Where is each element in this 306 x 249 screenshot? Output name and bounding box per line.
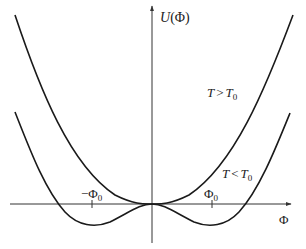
potential-diagram: U(Φ) T>T0 T<T0 −Φ0 Φ0 Φ: [0, 0, 306, 249]
y-axis-label: U(Φ): [160, 10, 190, 26]
tick-label-pos-phi0: Φ0: [204, 186, 219, 203]
label-low-temperature: T<T0: [222, 166, 253, 183]
label-high-temperature: T>T0: [207, 85, 238, 102]
tick-label-neg-phi0: −Φ0: [81, 186, 103, 203]
x-axis-label: Φ: [279, 212, 289, 227]
